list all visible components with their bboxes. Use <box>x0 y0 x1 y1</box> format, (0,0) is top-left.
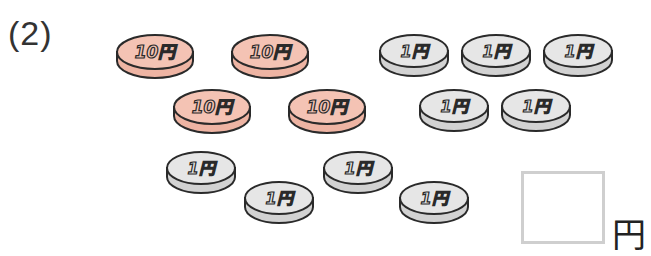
coin-label: 1円 <box>400 42 430 61</box>
one-yen-coin-icon: 1円 <box>398 180 470 226</box>
one-yen-coin-icon: 1円 <box>322 150 394 196</box>
ten-yen-coin-icon: 10円 <box>172 88 252 136</box>
coin-label: 1円 <box>187 159 217 178</box>
one-yen-coin-icon: 1円 <box>378 33 450 79</box>
ten-yen-coin-icon: 10円 <box>287 88 367 136</box>
one-yen-coin-icon: 1円 <box>165 150 237 196</box>
coin-label: 1円 <box>522 97 552 116</box>
answer-box[interactable] <box>521 171 605 244</box>
ten-yen-coin-icon: 10円 <box>230 33 310 81</box>
one-yen-coin-icon: 1円 <box>418 88 490 134</box>
one-yen-coin-icon: 1円 <box>542 33 614 79</box>
coin-label: 1円 <box>420 189 450 208</box>
coin-label: 10円 <box>250 42 294 62</box>
ten-yen-coin-icon: 10円 <box>115 33 195 81</box>
coin-label: 10円 <box>307 97 351 117</box>
coin-label: 1円 <box>344 159 374 178</box>
one-yen-coin-icon: 1円 <box>460 33 532 79</box>
one-yen-coin-icon: 1円 <box>500 88 572 134</box>
unit-label: 円 <box>612 208 646 256</box>
coin-label: 10円 <box>192 97 236 117</box>
question-number: (2) <box>8 14 53 53</box>
coin-label: 1円 <box>265 189 295 208</box>
coin-label: 1円 <box>564 42 594 61</box>
coin-label: 1円 <box>482 42 512 61</box>
coin-label: 10円 <box>135 42 179 62</box>
one-yen-coin-icon: 1円 <box>243 180 315 226</box>
coin-label: 1円 <box>440 97 470 116</box>
